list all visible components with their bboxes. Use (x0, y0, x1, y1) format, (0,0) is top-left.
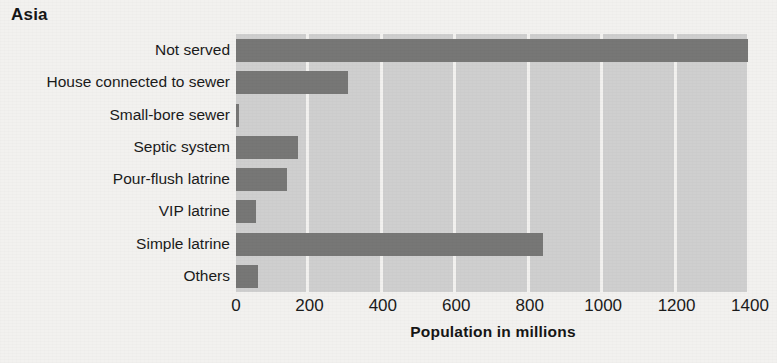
bar (236, 233, 543, 256)
x-tick-label: 400 (369, 296, 397, 316)
bar-series (236, 34, 750, 292)
bar (236, 200, 256, 223)
category-label: Small-bore sewer (0, 106, 230, 124)
x-tick-label: 1200 (658, 296, 696, 316)
bar-row (236, 228, 750, 260)
bar (236, 168, 287, 191)
bar-row (236, 99, 750, 131)
bar (236, 265, 258, 288)
x-tick-label: 0 (231, 296, 240, 316)
x-axis-ticks: 0200400600800100012001400 (0, 296, 777, 320)
category-label: House connected to sewer (0, 73, 230, 91)
category-label: Simple latrine (0, 235, 230, 253)
x-tick-label: 1400 (731, 296, 769, 316)
bar-row (236, 131, 750, 163)
category-label: Not served (0, 41, 230, 59)
bar-row (236, 260, 750, 292)
chart-figure: Asia Not servedHouse connected to sewerS… (0, 0, 777, 363)
bar-row (236, 34, 750, 66)
x-tick-label: 800 (516, 296, 544, 316)
x-tick-label: 200 (295, 296, 323, 316)
bar-row (236, 163, 750, 195)
x-axis-title: Population in millions (236, 323, 750, 341)
category-axis-labels: Not servedHouse connected to sewerSmall-… (0, 34, 230, 292)
bar (236, 136, 298, 159)
category-label: Others (0, 267, 230, 285)
plot-area (236, 34, 750, 292)
bar-row (236, 66, 750, 98)
bar (236, 39, 748, 62)
bar (236, 71, 348, 94)
category-label: VIP latrine (0, 202, 230, 220)
bar (236, 104, 239, 127)
category-label: Pour-flush latrine (0, 170, 230, 188)
chart-title: Asia (11, 5, 48, 25)
bar-row (236, 195, 750, 227)
x-tick-label: 1000 (584, 296, 622, 316)
x-tick-label: 600 (442, 296, 470, 316)
category-label: Septic system (0, 138, 230, 156)
